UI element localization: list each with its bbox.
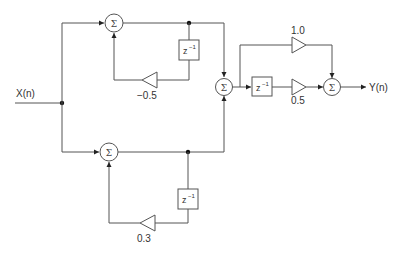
upper-gain-label: −0.5	[137, 90, 157, 101]
fir-section: 1.0 z −1 0.5 Σ	[233, 25, 341, 106]
output-signal: Y(n)	[341, 82, 388, 93]
delay-z-label: z	[256, 83, 261, 93]
output-summer: Σ	[324, 79, 341, 96]
input-signal: X(n)	[15, 88, 64, 105]
lower-feedback-wire-a	[155, 209, 188, 223]
lower-delay-box	[178, 189, 198, 209]
fir-direct-gain-label: 1.0	[291, 25, 305, 36]
fir-delay-block: z −1	[252, 77, 272, 96]
upper-feedback-wire-a	[157, 60, 189, 80]
lower-iir-branch: Σ z −1 0.3	[62, 143, 224, 244]
delay-exponent: −1	[189, 44, 197, 50]
middle-summer: Σ	[216, 79, 233, 96]
lower-delay-block: z −1	[178, 189, 198, 209]
lower-feedback-wire-b	[109, 162, 140, 223]
fir-direct-gain-triangle	[292, 37, 306, 53]
upper-delay-block: z −1	[179, 40, 199, 60]
upper-iir-branch: Σ z −1 −0.5	[62, 14, 224, 101]
sigma-icon: Σ	[221, 83, 227, 93]
sigma-icon: Σ	[106, 148, 112, 158]
delay-z-label: z	[183, 46, 188, 56]
upper-summer: Σ	[105, 14, 123, 32]
block-diagram: X(n) Σ z −1 −0.5 Σ	[0, 0, 398, 254]
fir-delayed-gain-label: 0.5	[291, 95, 305, 106]
fir-delayed-gain-triangle	[292, 79, 306, 95]
lower-gain-triangle	[140, 215, 155, 231]
lower-summer: Σ	[100, 143, 118, 161]
upper-feedback-wire-b	[114, 33, 142, 80]
sigma-icon: Σ	[111, 19, 117, 29]
upper-delay-box	[179, 40, 199, 60]
upper-gain-triangle	[142, 72, 157, 88]
lower-gain-label: 0.3	[137, 233, 151, 244]
delay-z-label: z	[182, 195, 187, 205]
output-label: Y(n)	[369, 82, 388, 93]
sigma-icon: Σ	[329, 83, 335, 93]
input-label: X(n)	[16, 88, 35, 99]
fir-direct-out-wire	[306, 45, 332, 78]
delay-exponent: −1	[262, 81, 270, 87]
delay-exponent: −1	[188, 193, 196, 199]
